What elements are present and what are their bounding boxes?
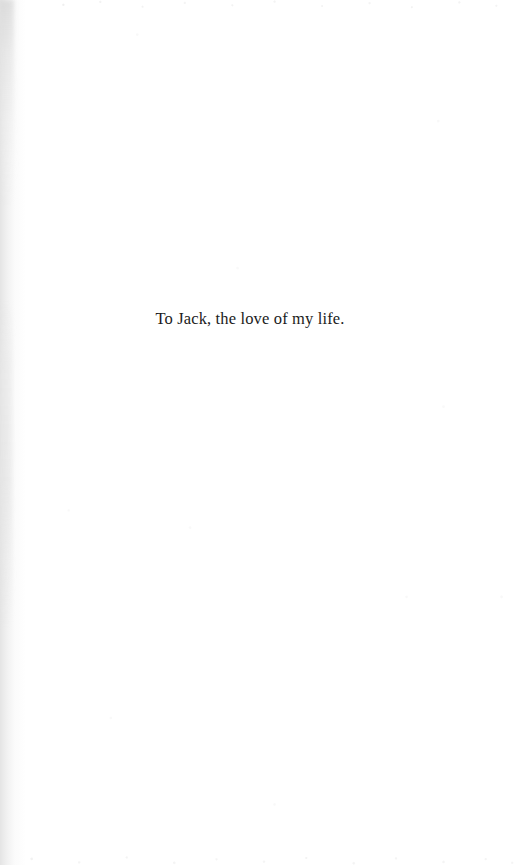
scan-speckle-bottom-margin: [0, 843, 528, 865]
dedication-text: To Jack, the love of my life.: [0, 309, 500, 329]
binding-gutter-shadow-upper: [0, 0, 14, 210]
binding-gutter-shadow-lower: [0, 300, 12, 630]
binding-gutter-shadow: [0, 0, 26, 865]
scan-speckle-top-margin: [0, 0, 528, 16]
scan-speckle-page-body: [0, 0, 528, 865]
scanned-page: To Jack, the love of my life.: [0, 0, 528, 865]
